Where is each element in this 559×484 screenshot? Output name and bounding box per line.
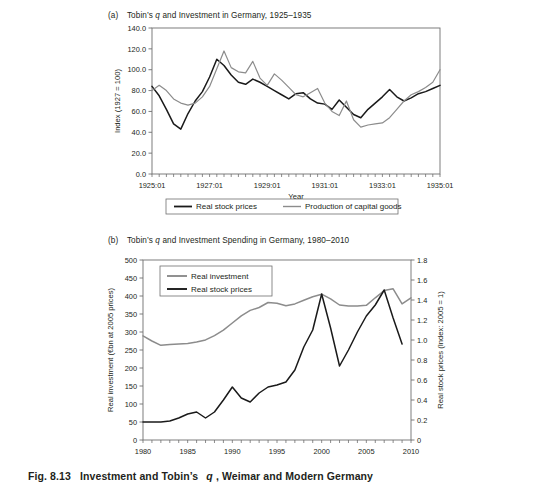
- y-tick-label-right: 0.2: [417, 416, 427, 425]
- panel-b-title-post: and Investment Spending in Germany, 1980…: [162, 236, 349, 245]
- y-tick-label-right: 1.6: [417, 276, 427, 285]
- y-tick-label-left: 250: [125, 346, 137, 355]
- y-tick-label: 100.0: [128, 65, 147, 74]
- y-tick-label-left: 300: [125, 328, 137, 337]
- panel-b-title: (b) Tobin’s q and Investment Spending in…: [108, 236, 349, 245]
- x-tick-label: 1931:01: [311, 181, 338, 190]
- x-tick-label: 1990: [224, 447, 240, 456]
- y-tick-label: 120.0: [128, 45, 147, 54]
- legend-label-real-stock-prices: Real stock prices: [196, 202, 257, 211]
- x-tick-label: 1925:01: [139, 181, 166, 190]
- x-tick-label: 2005: [358, 447, 374, 456]
- chart-panel-b: 05010015020025030035040045050000.20.40.6…: [0, 248, 559, 468]
- y-tick-label-left: 350: [125, 310, 137, 319]
- y-tick-label-left: 0: [133, 436, 137, 445]
- y-tick-label-right: 0.8: [417, 356, 427, 365]
- y-tick-label-left: 450: [125, 274, 137, 283]
- y-tick-label: 140.0: [128, 24, 147, 33]
- x-tick-label: 2000: [313, 447, 329, 456]
- legend-label-production-of-capital-goods: Production of capital goods: [305, 202, 402, 211]
- y-axis-label: Index (1927 = 100): [113, 69, 122, 133]
- y-tick-label-left: 150: [125, 382, 137, 391]
- legend-label-real-investment: Real investment: [191, 272, 249, 281]
- caption-main: Investment and Tobin’s: [80, 470, 198, 482]
- caption-number: Fig. 8.13: [28, 470, 71, 482]
- y-tick-label: 60.0: [132, 107, 146, 116]
- panel-b-label: (b): [108, 236, 118, 245]
- y-tick-label: 0.0: [136, 170, 146, 179]
- y-tick-label-left: 50: [129, 418, 137, 427]
- figure-container: (a) Tobin’s q and Investment in Germany,…: [0, 0, 559, 484]
- y-tick-label-right: 0: [417, 436, 421, 445]
- series-line: [143, 290, 402, 422]
- y-tick-label-left: 400: [125, 292, 137, 301]
- x-tick-label: 1929:01: [254, 181, 281, 190]
- y-axis-label-right: Real stock prices (Index: 2005 = 1): [436, 291, 445, 409]
- caption-italic-q: q: [206, 470, 213, 482]
- series-line: [152, 51, 440, 127]
- x-tick-label: 1980: [135, 447, 151, 456]
- y-tick-label-right: 0.4: [417, 396, 427, 405]
- x-tick-label: 1985: [179, 447, 195, 456]
- legend-label-real-stock-prices: Real stock prices: [191, 285, 252, 294]
- x-tick-label: 2010: [403, 447, 419, 456]
- y-tick-label-right: 0.6: [417, 376, 427, 385]
- y-tick-label-right: 1.0: [417, 336, 427, 345]
- figure-caption: Fig. 8.13 Investment and Tobin’s q , Wei…: [28, 470, 373, 482]
- caption-suffix: , Weimar and Modern Germany: [216, 470, 373, 482]
- series-line: [143, 289, 411, 346]
- y-tick-label: 80.0: [132, 86, 146, 95]
- panel-b-title-pre: Tobin’s: [127, 236, 153, 245]
- x-tick-label: 1995: [269, 447, 285, 456]
- y-axis-label-left: Real investment (€bn at 2005 prices): [106, 287, 115, 412]
- x-tick-label: 1935:01: [427, 181, 454, 190]
- panel-b-title-italic: q: [155, 236, 160, 245]
- y-tick-label-left: 500: [125, 256, 137, 265]
- x-tick-label: 1933:01: [369, 181, 396, 190]
- y-tick-label-left: 100: [125, 400, 137, 409]
- chart-panel-a: 0.020.040.060.080.0100.0120.0140.01925:0…: [0, 18, 559, 233]
- y-tick-label-right: 1.8: [417, 256, 427, 265]
- x-tick-label: 1927:01: [196, 181, 223, 190]
- y-tick-label-left: 200: [125, 364, 137, 373]
- y-tick-label: 20.0: [132, 149, 146, 158]
- y-tick-label: 40.0: [132, 128, 146, 137]
- y-tick-label-right: 1.2: [417, 316, 427, 325]
- y-tick-label-right: 1.4: [417, 296, 427, 305]
